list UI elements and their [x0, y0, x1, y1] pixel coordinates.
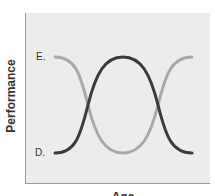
- curves-layer: [0, 0, 215, 196]
- dark-curve: [55, 57, 192, 153]
- y-axis-label: Performance: [4, 51, 18, 141]
- level-d-label: D.: [35, 147, 45, 158]
- x-axis-label: Age: [93, 190, 153, 196]
- light-curve: [55, 57, 192, 153]
- level-e-label: E.: [36, 51, 45, 62]
